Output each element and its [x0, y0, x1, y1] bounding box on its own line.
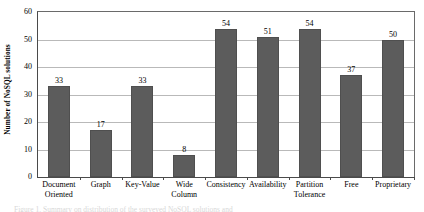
- bar: [382, 40, 404, 178]
- y-tick-label-50: 50: [24, 34, 32, 43]
- x-tick-label: DocumentOriented: [42, 180, 75, 199]
- x-tick-label-line: Tolerance: [294, 190, 325, 200]
- x-tick-label: WideColumn: [171, 180, 197, 199]
- bar: [173, 155, 195, 177]
- y-tick-label-0: 0: [28, 172, 32, 181]
- x-tick-label-line: Wide: [171, 180, 197, 190]
- y-tick-label-10: 10: [24, 144, 32, 153]
- x-tick-label-line: Availability: [249, 180, 287, 190]
- x-tick-label: Key-Value: [125, 180, 159, 190]
- bar: [48, 86, 70, 177]
- bar: [90, 130, 112, 177]
- bar-chart-figure: Number of NoSQL solutions 0102030405060 …: [0, 0, 424, 212]
- figure-caption: Figure 1. Summary on distribution of the…: [14, 205, 414, 212]
- plot-area: 33173385451543750: [37, 11, 415, 178]
- bar-value-label: 33: [55, 76, 63, 85]
- bar-value-label: 50: [389, 30, 397, 39]
- x-tick-label-line: Graph: [91, 180, 111, 190]
- plot-inner: 33173385451543750: [38, 12, 414, 177]
- x-tick-label: Graph: [91, 180, 111, 190]
- bar-value-label: 51: [264, 27, 272, 36]
- bar-value-label: 33: [138, 76, 146, 85]
- x-tick-label-line: Column: [171, 190, 197, 200]
- x-tick-label-line: Document: [42, 180, 75, 190]
- x-tick-label-line: Proprietary: [375, 180, 411, 190]
- x-tick-label-line: Partition: [294, 180, 325, 190]
- y-tick-label-60: 60: [24, 7, 32, 16]
- x-axis-tick-labels: DocumentOrientedGraphKey-ValueWideColumn…: [37, 180, 415, 204]
- x-tick-label-line: Oriented: [42, 190, 75, 200]
- bar-value-label: 8: [182, 145, 186, 154]
- x-tick-label: Availability: [249, 180, 287, 190]
- x-tick-label-line: Free: [344, 180, 358, 190]
- x-tick-label: Consistency: [206, 180, 245, 190]
- bar-value-label: 17: [97, 120, 105, 129]
- x-tick-label: Proprietary: [375, 180, 411, 190]
- bar-value-label: 37: [347, 65, 355, 74]
- y-tick-label-20: 20: [24, 117, 32, 126]
- bar: [215, 29, 237, 178]
- bar-value-label: 54: [222, 19, 230, 28]
- x-tick-label-line: Consistency: [206, 180, 245, 190]
- y-tick-label-30: 30: [24, 89, 32, 98]
- bar: [257, 37, 279, 177]
- y-axis-tick-labels: 0102030405060: [13, 5, 35, 179]
- bar-value-label: 54: [306, 19, 314, 28]
- y-axis-title: Number of NoSQL solutions: [3, 44, 12, 135]
- bar: [340, 75, 362, 177]
- y-axis-title-container: Number of NoSQL solutions: [0, 0, 14, 178]
- x-tick-label-line: Key-Value: [125, 180, 159, 190]
- x-tick-label: PartitionTolerance: [294, 180, 325, 199]
- y-tick-label-40: 40: [24, 62, 32, 71]
- x-tick-label: Free: [344, 180, 358, 190]
- bar: [131, 86, 153, 177]
- bar: [299, 29, 321, 178]
